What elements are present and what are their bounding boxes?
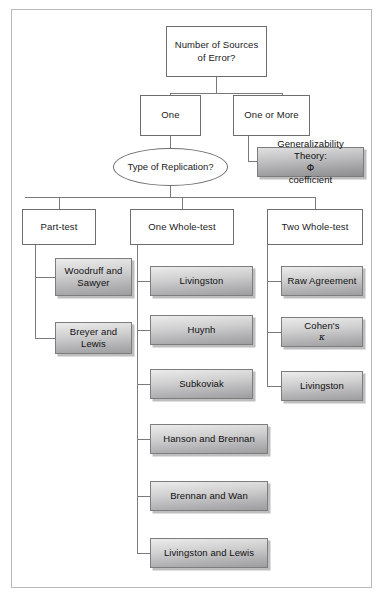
decision-line1: Type of [127, 161, 158, 172]
leaf-subkoviak[interactable]: Subkoviak [150, 369, 253, 399]
node-one-whole-test[interactable]: One Whole-test [130, 209, 234, 245]
generalizability-line2: Φ coefficient [262, 162, 359, 186]
node-number-of-sources-line1: Number of Sources [172, 39, 262, 51]
node-one-label: One [158, 109, 182, 121]
node-number-of-sources[interactable]: Number of Sources of Error? [166, 26, 267, 77]
leaf-livingston-1-label: Livingston [176, 275, 228, 287]
stub-one-whole-3 [137, 384, 151, 385]
leaf-raw-agreement[interactable]: Raw Agreement [281, 266, 363, 296]
stub-one-whole-4 [137, 439, 151, 440]
stub-two-whole-3 [267, 386, 281, 387]
stub-one-whole-6 [137, 553, 151, 554]
node-two-whole-test[interactable]: Two Whole-test [267, 209, 363, 245]
leaf-cohens-kappa[interactable]: Cohen's κ [281, 317, 363, 347]
connector-decision-stem [170, 186, 171, 197]
decision-line2: Replication? [161, 161, 213, 172]
leaf-subkoviak-label: Subkoviak [175, 378, 228, 390]
leaf-cohens-label: Cohen's [300, 320, 343, 332]
leaf-brennan-wan-label: Brennan and Wan [166, 490, 252, 502]
stub-one-whole-1 [137, 281, 151, 282]
node-number-of-sources-line2: of Error? [172, 52, 262, 64]
spine-part-test [35, 245, 36, 338]
leaf-woodruff-and-sawyer[interactable]: Woodruff and Sawyer [55, 258, 132, 296]
leaf-huynh-label: Huynh [184, 324, 220, 336]
leaf-brennan-and-wan[interactable]: Brennan and Wan [150, 481, 268, 511]
connector-distribution-bar [25, 197, 316, 198]
stub-two-whole-1 [267, 281, 281, 282]
connector-drop-two-whole [315, 197, 316, 209]
leaf-huynh[interactable]: Huynh [150, 315, 253, 345]
leaf-raw-agreement-label: Raw Agreement [284, 275, 361, 287]
node-one-or-more-label: One or More [241, 109, 301, 121]
kappa-symbol: κ [300, 332, 343, 344]
connector-root-stem [216, 77, 217, 93]
connector-drop-part-test [59, 197, 60, 209]
flowchart-canvas: Number of Sources of Error? One One or M… [0, 0, 384, 605]
phi-symbol: Φ [266, 162, 355, 174]
node-one[interactable]: One [140, 95, 201, 136]
generalizability-suffix: coefficient [266, 174, 355, 186]
connector-onemore-spine [248, 136, 249, 162]
leaf-breyer-and-lewis[interactable]: Breyer and Lewis [55, 322, 132, 354]
leaf-breyer-label: Breyer and Lewis [56, 326, 131, 350]
node-part-test-label: Part-test [38, 221, 81, 233]
leaf-woodruff-line1: Woodruff and [61, 265, 127, 277]
connector-drop-one-whole [182, 197, 183, 209]
generalizability-line1: Generalizability Theory: [262, 138, 359, 162]
node-generalizability-theory[interactable]: Generalizability Theory: Φ coefficient [257, 147, 364, 177]
spine-two-whole [267, 245, 268, 387]
stub-one-whole-2 [137, 330, 151, 331]
leaf-woodruff-line2: Sawyer [61, 277, 127, 289]
node-one-whole-test-label: One Whole-test [145, 221, 218, 233]
stub-two-whole-2 [267, 332, 281, 333]
leaf-livingston-and-lewis[interactable]: Livingston and Lewis [150, 538, 268, 568]
leaf-livingston-2-label: Livingston [296, 380, 348, 392]
leaf-livingston-1[interactable]: Livingston [150, 266, 253, 296]
node-type-of-replication[interactable]: Type of Replication? [113, 148, 228, 186]
leaf-hanson-and-brennan[interactable]: Hanson and Brennan [150, 424, 268, 454]
spine-one-whole [137, 245, 138, 554]
stub-part-test-2 [35, 338, 55, 339]
leaf-hanson-label: Hanson and Brennan [159, 433, 259, 445]
leaf-livingston-lewis-label: Livingston and Lewis [160, 547, 258, 559]
node-two-whole-test-label: Two Whole-test [279, 221, 352, 233]
leaf-livingston-2[interactable]: Livingston [281, 371, 363, 401]
stub-part-test-1 [35, 277, 55, 278]
connector-root-split [170, 93, 283, 94]
stub-one-whole-5 [137, 496, 151, 497]
node-part-test[interactable]: Part-test [22, 209, 96, 245]
node-one-or-more[interactable]: One or More [233, 95, 310, 136]
